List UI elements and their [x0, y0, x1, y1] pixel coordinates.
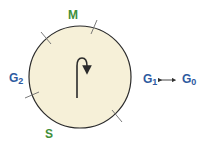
cycle-circle [29, 26, 131, 128]
label-g1: G1 [143, 73, 157, 87]
label-g0: G0 [182, 73, 196, 87]
label-g2: G2 [9, 72, 23, 86]
cell-cycle-diagram: M S G2 G1 G0 [0, 0, 199, 143]
label-s: S [45, 128, 53, 140]
label-m: M [68, 9, 78, 21]
cycle-graphic [0, 0, 199, 143]
